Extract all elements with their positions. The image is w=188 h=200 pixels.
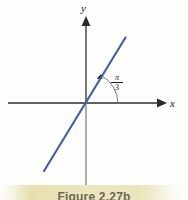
angle-measure-label: π 3 <box>109 74 125 92</box>
y-axis-arrowhead <box>82 16 91 26</box>
coordinate-plane-graphic <box>0 0 188 200</box>
angle-numerator: π <box>109 74 125 82</box>
y-axis-label: y <box>81 3 86 14</box>
figure-caption-text: Figure 2.27b <box>0 191 188 200</box>
figure-container: y x π 3 Figure 2.27b <box>0 0 188 200</box>
terminal-side-line <box>44 38 126 172</box>
x-axis-arrowhead <box>157 99 167 108</box>
figure-caption-band: Figure 2.27b <box>0 185 188 200</box>
x-axis-label: x <box>170 98 175 109</box>
angle-denominator: 3 <box>109 83 125 92</box>
